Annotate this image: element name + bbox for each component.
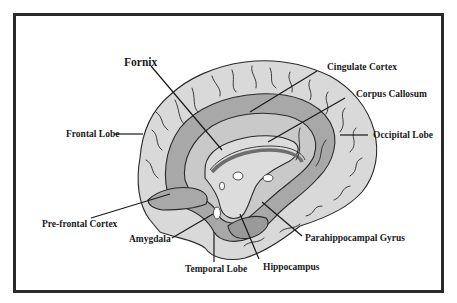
brain-illustration: Fornix Cingulate Cortex Corpus Callosum … <box>0 0 457 303</box>
label-occipital-lobe: Occipital Lobe <box>373 130 433 140</box>
label-cingulate-cortex: Cingulate Cortex <box>327 62 397 72</box>
label-frontal-lobe: Frontal Lobe <box>66 129 119 139</box>
label-corpus-callosum: Corpus Callosum <box>356 89 427 99</box>
label-amygdala: Amygdala <box>129 234 171 244</box>
label-parahippocampal-gyrus: Parahippocampal Gyrus <box>305 233 405 243</box>
label-prefrontal-cortex: Pre-frontal Cortex <box>42 219 118 229</box>
white-oval-2 <box>263 175 273 182</box>
label-hippocampus: Hippocampus <box>263 262 320 272</box>
white-oval-3 <box>220 182 225 190</box>
label-fornix: Fornix <box>124 56 157 68</box>
amygdala-structure <box>214 207 221 219</box>
diagram-canvas: Fornix Cingulate Cortex Corpus Callosum … <box>0 0 457 303</box>
white-oval-1 <box>233 172 243 180</box>
label-temporal-lobe: Temporal Lobe <box>185 264 247 274</box>
